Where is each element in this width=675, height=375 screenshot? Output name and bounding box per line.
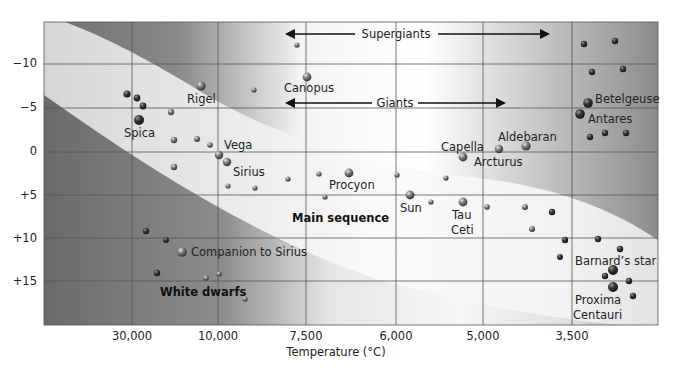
x-axis-ticks: 30,000 10,000 7,500 6,000 5,000 3,500 Te… — [112, 329, 589, 359]
star — [216, 271, 222, 277]
label-white-dwarfs: White dwarfs — [160, 285, 246, 299]
star — [134, 95, 141, 102]
star — [522, 204, 528, 210]
star — [171, 164, 177, 170]
star-procyon — [345, 169, 354, 178]
label-spica: Spica — [124, 126, 155, 140]
star — [194, 136, 200, 142]
x-tick: 10,000 — [198, 329, 238, 343]
label-arcturus: Arcturus — [474, 155, 522, 169]
star-tau-ceti — [459, 198, 468, 207]
label-sirius: Sirius — [233, 165, 265, 179]
x-tick: 30,000 — [112, 329, 152, 343]
label-betelgeuse: Betelgeuse — [595, 92, 659, 106]
star-arcturus — [495, 145, 503, 153]
star — [285, 176, 290, 181]
star — [630, 293, 636, 299]
hr-diagram: −10 −5 0 +5 +10 +15 30,000 10,000 7,500 … — [0, 0, 675, 375]
star — [620, 66, 626, 72]
x-tick: 6,000 — [380, 329, 413, 343]
label-capella: Capella — [441, 140, 484, 154]
label-rigel: Rigel — [187, 92, 216, 106]
label-vega: Vega — [224, 138, 252, 152]
star — [143, 228, 149, 234]
label-sun: Sun — [400, 201, 422, 215]
star — [602, 273, 608, 279]
star — [171, 137, 177, 143]
star — [163, 237, 169, 243]
star — [207, 142, 213, 148]
label-companion-to-sirius: Companion to Sirius — [191, 245, 307, 259]
star — [602, 130, 608, 136]
star — [557, 254, 563, 260]
star — [623, 130, 629, 136]
label-aldebaran: Aldebaran — [498, 130, 557, 144]
star — [612, 38, 618, 44]
star-sirius — [223, 158, 231, 166]
y-tick: −10 — [13, 56, 37, 70]
star — [484, 204, 490, 210]
star-rigel — [196, 81, 205, 90]
star-proxima — [608, 282, 618, 292]
y-axis-ticks: −10 −5 0 +5 +10 +15 — [13, 56, 37, 288]
supergiants-label: Supergiants — [362, 27, 431, 41]
star — [322, 194, 327, 199]
star — [123, 90, 130, 97]
star — [617, 246, 623, 252]
star — [626, 278, 632, 284]
star-betelgeuse — [583, 98, 593, 108]
star — [225, 183, 230, 188]
star — [428, 199, 433, 204]
label-procyon: Procyon — [329, 178, 375, 192]
label-ceti: Ceti — [451, 223, 474, 237]
label-centauri: Centauri — [573, 308, 622, 322]
star-vega — [215, 151, 223, 159]
star — [252, 185, 257, 190]
label-main-sequence: Main sequence — [292, 211, 389, 225]
y-tick: 0 — [30, 144, 37, 158]
star — [316, 171, 321, 176]
label-canopus: Canopus — [284, 81, 334, 95]
y-tick: −5 — [20, 100, 37, 114]
label-tau: Tau — [451, 208, 471, 222]
star — [154, 270, 160, 276]
star — [251, 87, 256, 92]
y-tick: +5 — [20, 188, 37, 202]
y-tick: +10 — [13, 231, 37, 245]
star — [587, 134, 593, 140]
star-sun — [406, 191, 415, 200]
giants-label: Giants — [377, 96, 414, 110]
star-antares — [575, 109, 585, 119]
star — [562, 237, 568, 243]
x-tick: 5,000 — [467, 329, 500, 343]
x-tick: 7,500 — [290, 329, 323, 343]
label-barnards-star: Barnard’s star — [575, 254, 656, 268]
star — [203, 275, 209, 281]
star — [529, 226, 535, 232]
star — [140, 103, 147, 110]
label-antares: Antares — [588, 112, 632, 126]
star — [443, 175, 448, 180]
star — [581, 41, 587, 47]
star — [589, 69, 595, 75]
y-tick: +15 — [13, 274, 37, 288]
star — [168, 109, 174, 115]
star — [549, 209, 555, 215]
x-axis-title: Temperature (°C) — [285, 345, 385, 359]
label-proxima: Proxima — [575, 293, 621, 307]
star — [294, 42, 299, 47]
star-spica — [134, 115, 144, 125]
star-companion-to-sirius — [177, 247, 187, 257]
star — [394, 172, 399, 177]
star — [595, 236, 601, 242]
x-tick: 3,500 — [556, 329, 589, 343]
